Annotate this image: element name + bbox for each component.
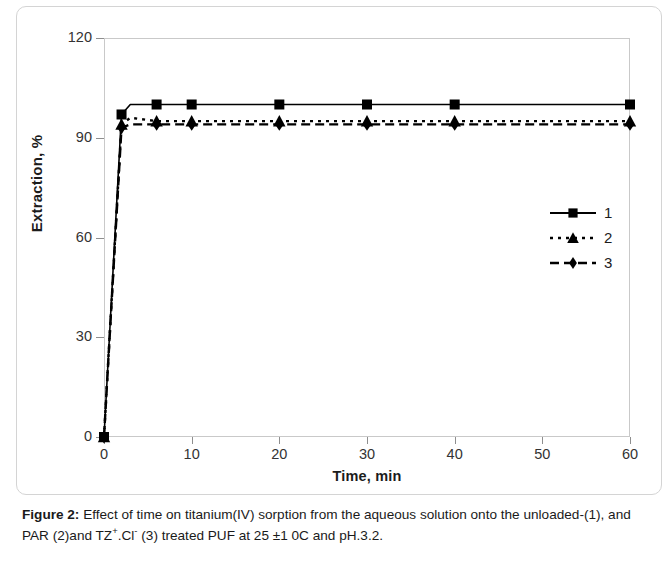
legend-label: 2	[604, 230, 612, 245]
chart: 0306090120 0102030405060 Time, min Extra…	[0, 0, 666, 495]
data-point	[117, 121, 126, 134]
data-point	[275, 118, 284, 131]
data-point	[117, 109, 127, 119]
data-point	[274, 100, 284, 110]
data-point	[152, 100, 162, 110]
figure-caption: Figure 2: Effect of time on titanium(IV)…	[22, 505, 644, 545]
data-point	[450, 118, 459, 131]
series-3	[100, 118, 635, 443]
legend-label: 3	[604, 255, 612, 270]
data-point	[625, 100, 635, 110]
legend-swatch-diamond-icon	[548, 255, 598, 271]
legend-item-3[interactable]: 3	[548, 250, 630, 275]
legend: 123	[548, 200, 630, 275]
data-point	[363, 118, 372, 131]
data-point	[187, 100, 197, 110]
data-point	[362, 100, 372, 110]
caption-figure-number: Figure 2:	[22, 507, 79, 522]
x-axis-title: Time, min	[104, 468, 630, 484]
y-axis-title: Extraction, %	[28, 104, 45, 264]
legend-swatch-triangle-icon	[548, 230, 598, 246]
data-point	[626, 118, 635, 131]
series-line	[104, 124, 630, 437]
data-point	[187, 118, 196, 131]
series-2	[98, 115, 636, 442]
caption-tail: (3) treated PUF at 25 ±1 0C and pH.3.2.	[138, 528, 383, 543]
caption-mid: .Cl	[118, 528, 135, 543]
legend-item-1[interactable]: 1	[548, 200, 630, 225]
legend-swatch-square-icon	[548, 205, 598, 221]
series-line	[104, 118, 630, 437]
data-point	[450, 100, 460, 110]
legend-label: 1	[604, 205, 612, 220]
legend-item-2[interactable]: 2	[548, 225, 630, 250]
